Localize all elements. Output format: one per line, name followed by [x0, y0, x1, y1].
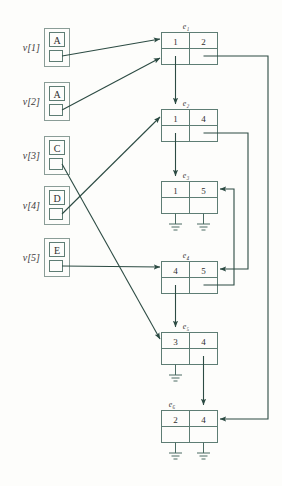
nil-ground-e6-right — [197, 443, 210, 460]
vertex-label-5: v[5] — [23, 252, 40, 263]
diagram-canvas: A v[1] A v[2] C v[3] D v[4] E v[5] e₁ — [0, 0, 282, 486]
vertex-cell-3[interactable]: C v[3] — [23, 137, 70, 175]
edge-label-e5: e₅ — [183, 322, 190, 331]
edge-e1-right-value: 2 — [201, 37, 206, 47]
nil-ground-e3-right — [197, 214, 210, 231]
vertex-label-4: v[4] — [23, 200, 40, 211]
vertex-label-1: v[1] — [23, 42, 40, 53]
edge-e4-right-value: 5 — [201, 266, 206, 276]
vertex-key-4: D — [53, 193, 60, 204]
nil-ground-e3-left — [169, 214, 182, 231]
pointer-e2-right-to-e4 — [204, 133, 249, 269]
pointer-v1-to-e1 — [62, 39, 160, 56]
edge-e1-left-value: 1 — [173, 37, 178, 47]
vertex-key-1: A — [53, 35, 61, 46]
edge-e2-left-value: 1 — [173, 114, 178, 124]
vertex-cell-5[interactable]: E v[5] — [23, 239, 70, 277]
edge-label-e6: e₆ — [169, 400, 176, 409]
edge-label-e4: e₄ — [183, 251, 190, 260]
pointer-v2-to-e1 — [62, 58, 160, 110]
edge-node-e1[interactable]: e₁ 1 2 — [162, 22, 218, 65]
edge-node-e5[interactable]: e₅ 3 4 — [162, 322, 218, 381]
edge-e6-left-value: 2 — [173, 415, 178, 425]
edge-label-e2: e₂ — [183, 99, 190, 108]
edge-label-e3: e₃ — [183, 171, 190, 180]
edge-node-e4[interactable]: e₄ 4 5 — [162, 251, 218, 294]
edge-node-e3[interactable]: e₃ 1 5 — [162, 171, 218, 230]
pointer-v3-to-e5 — [62, 164, 160, 339]
linked-structure-diagram: A v[1] A v[2] C v[3] D v[4] E v[5] e₁ — [0, 0, 282, 486]
edge-node-e2[interactable]: e₂ 1 4 — [162, 99, 218, 142]
vertex-key-2: A — [53, 89, 61, 100]
edge-e4-left-value: 4 — [173, 266, 178, 276]
vertex-cell-4[interactable]: D v[4] — [23, 187, 70, 225]
edge-label-e1: e₁ — [183, 22, 190, 31]
pointer-v5-to-e4 — [62, 266, 160, 267]
edge-e3-left-value: 1 — [173, 186, 178, 196]
nil-ground-e6-left — [169, 443, 182, 460]
edge-node-e6[interactable]: e₆ 2 4 — [162, 400, 218, 459]
edge-e6-right-value: 4 — [201, 415, 206, 425]
vertex-cell-2[interactable]: A v[2] — [23, 83, 70, 121]
edge-e3-right-value: 5 — [201, 186, 206, 196]
nil-ground-e5-left — [169, 365, 182, 382]
vertex-cell-1[interactable]: A v[1] — [23, 29, 70, 67]
edge-e2-right-value: 4 — [201, 114, 206, 124]
edge-e5-left-value: 3 — [173, 337, 178, 347]
vertex-label-3: v[3] — [23, 150, 40, 161]
vertex-label-2: v[2] — [23, 96, 40, 107]
vertex-key-5: E — [54, 245, 60, 256]
pointer-v4-to-e2 — [62, 117, 160, 214]
pointer-e4-right-to-e3 — [204, 189, 235, 285]
edge-e5-right-value: 4 — [201, 337, 206, 347]
vertex-key-3: C — [54, 143, 61, 154]
